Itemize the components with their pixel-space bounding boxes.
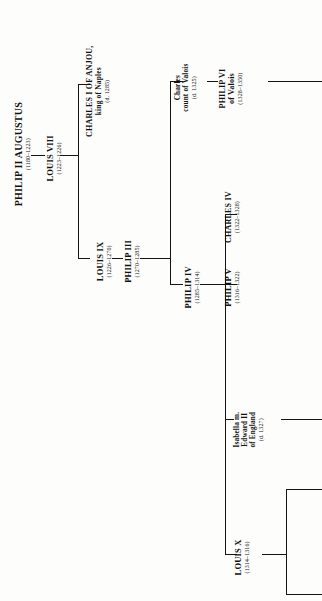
node-philip3-dates: (1270–1285) — [134, 216, 141, 306]
edge-charlesv-philip6 — [207, 81, 218, 82]
node-louis10[interactable]: LOUIS X (1314–1316) — [234, 512, 251, 601]
node-charles1-dates: (d. 1285) — [104, 41, 111, 141]
edge-louis8-spine — [60, 155, 79, 156]
bracket-louis8 — [78, 84, 79, 259]
node-charlesv-dates: (d. 1325) — [191, 48, 198, 128]
node-louis8-name: LOUIS VIII — [46, 113, 56, 203]
node-philip3[interactable]: PHILIP III (1270–1285) — [124, 216, 141, 306]
genealogy-chart: PHILIP II AUGUSTUS (1180–1223) LOUIS VII… — [0, 0, 322, 601]
node-philip6[interactable]: PHILIP VI of Valois (1328–1350) — [219, 49, 244, 129]
node-philip6-dates: (1328–1350) — [238, 49, 245, 129]
node-philip4[interactable]: PHILIP IV (1285–1314) — [184, 242, 201, 332]
edge-philip3-spine — [140, 258, 171, 259]
node-philip2-dates: (1180–1223) — [24, 94, 31, 214]
node-philip5-dates: (1316–1322) — [234, 242, 241, 332]
node-louis9-dates: (1226–1270) — [106, 216, 113, 306]
edge-louis10-spine — [262, 554, 286, 555]
edge-louis9-philip3 — [112, 258, 123, 259]
node-louis9-name: LOUIS IX — [96, 216, 106, 306]
node-philip5-name: PHILIP V — [224, 242, 234, 332]
node-charles1-name2: king of Naples — [95, 41, 103, 141]
node-louis8[interactable]: LOUIS VIII (1223–1226) — [46, 113, 63, 203]
node-isabella-name: Isabella m. — [233, 385, 241, 475]
node-philip2[interactable]: PHILIP II AUGUSTUS (1180–1223) — [13, 94, 31, 214]
bracket-philip3 — [170, 81, 171, 285]
node-philip4-name: PHILIP IV — [184, 242, 194, 332]
node-charlesv-name: Charles — [174, 48, 182, 128]
node-isabella[interactable]: Isabella m. Edward II of England (d. 132… — [233, 385, 264, 475]
edge-philip2-louis8 — [31, 155, 45, 156]
node-philip4-dates: (1285–1314) — [194, 242, 201, 332]
edge-philip6-continuation — [268, 81, 322, 82]
node-charlesv[interactable]: Charles count of Valois (d. 1325) — [174, 48, 197, 128]
node-philip5[interactable]: PHILIP V (1316–1322) — [224, 242, 241, 332]
node-louis10-name: LOUIS X — [234, 512, 244, 601]
bracket-louis10 — [286, 489, 287, 595]
node-louis8-dates: (1223–1226) — [56, 113, 63, 203]
edge-louis10-child-lower — [286, 594, 322, 595]
edge-isabella-continuation — [281, 419, 322, 420]
node-louis9[interactable]: LOUIS IX (1226–1270) — [96, 216, 113, 306]
edge-louis8-louis9 — [78, 258, 90, 259]
node-charlesv-name2: count of Valois — [182, 48, 190, 128]
node-isabella-dates: (d. 1327) — [258, 385, 265, 475]
node-philip2-name: PHILIP II AUGUSTUS — [13, 94, 24, 214]
edge-louis10-child-upper — [286, 489, 322, 490]
node-philip6-name2: of Valois — [228, 49, 237, 129]
edge-philip3-philip4 — [170, 284, 183, 285]
node-philip3-name: PHILIP III — [124, 216, 134, 306]
node-charles1[interactable]: CHARLES I of Anjou, king of Naples (d. 1… — [86, 41, 110, 141]
node-isabella-name3: of England — [249, 385, 257, 475]
node-louis10-dates: (1314–1316) — [244, 512, 251, 601]
node-isabella-name2: Edward II — [241, 385, 249, 475]
